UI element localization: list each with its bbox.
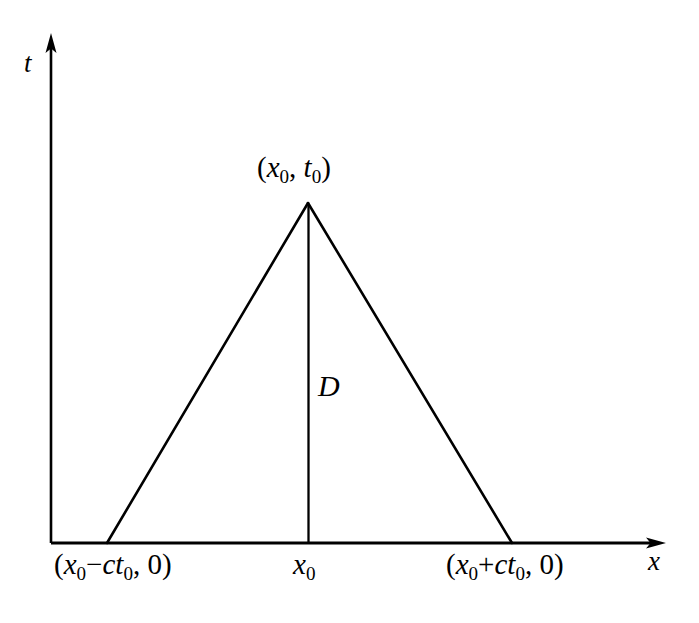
left-x-subscript: 0 bbox=[77, 563, 87, 584]
left-x-symbol: x bbox=[64, 548, 77, 580]
apex-close-paren: ) bbox=[321, 151, 331, 183]
left-zero: 0 bbox=[147, 548, 162, 580]
left-c-symbol: c bbox=[102, 548, 115, 580]
apex-open-paren: ( bbox=[257, 151, 267, 183]
t-axis-label: t bbox=[24, 50, 32, 77]
right-separator: , bbox=[525, 548, 540, 580]
left-operator: − bbox=[86, 548, 102, 580]
x-axis-label: x bbox=[648, 548, 660, 575]
center-x-symbol: x bbox=[293, 548, 306, 580]
figure-canvas: t x (x0, t0) D (x0−ct0, 0) x0 (x0+ct0, 0… bbox=[0, 0, 699, 623]
segment-d-label: D bbox=[318, 371, 340, 401]
apex-separator: , bbox=[289, 151, 304, 183]
center-vertex-label: x0 bbox=[293, 550, 315, 579]
right-operator: + bbox=[478, 548, 494, 580]
right-x-subscript: 0 bbox=[469, 563, 479, 584]
right-zero: 0 bbox=[539, 548, 554, 580]
apex-x-symbol: x bbox=[267, 151, 280, 183]
left-close-paren: ) bbox=[162, 548, 172, 580]
apex-t-subscript: 0 bbox=[312, 166, 322, 187]
apex-t-symbol: t bbox=[304, 151, 312, 183]
left-characteristic-line bbox=[107, 203, 308, 543]
right-close-paren: ) bbox=[554, 548, 564, 580]
left-t-subscript: 0 bbox=[123, 563, 133, 584]
right-open-paren: ( bbox=[446, 548, 456, 580]
right-t-subscript: 0 bbox=[515, 563, 525, 584]
left-open-paren: ( bbox=[54, 548, 64, 580]
right-c-symbol: c bbox=[494, 548, 507, 580]
apex-x-subscript: 0 bbox=[280, 166, 290, 187]
right-x-symbol: x bbox=[456, 548, 469, 580]
center-x-subscript: 0 bbox=[306, 563, 316, 584]
x-axis-group bbox=[51, 538, 666, 549]
spacetime-diagram-svg bbox=[0, 0, 699, 623]
right-vertex-label: (x0+ct0, 0) bbox=[446, 550, 564, 579]
left-vertex-label: (x0−ct0, 0) bbox=[54, 550, 172, 579]
t-axis-group bbox=[46, 33, 57, 543]
apex-coordinate-label: (x0, t0) bbox=[257, 153, 331, 182]
left-separator: , bbox=[133, 548, 148, 580]
